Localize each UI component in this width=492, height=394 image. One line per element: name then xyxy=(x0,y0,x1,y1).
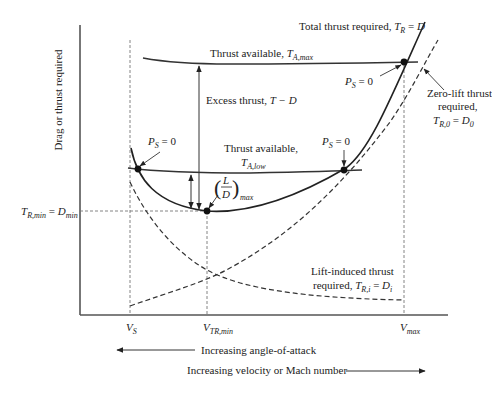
zero-lift-label-1: Zero-lift thrust xyxy=(427,87,492,99)
ps-label-max: PS = 0 xyxy=(344,75,373,90)
thrust-available-low-label-1: Thrust available, xyxy=(224,142,298,154)
lift-induced-label-2: required, TR,i = Di xyxy=(313,279,392,294)
ps-label-left: PS = 0 xyxy=(147,135,176,150)
ps-label-right: PS = 0 xyxy=(321,135,350,150)
total-thrust-label: Total thrust required, TR = D xyxy=(299,20,425,35)
ps-point-low-left xyxy=(135,166,142,173)
aoa-label: Increasing angle-of-attack xyxy=(201,344,317,356)
vtrmin-tick-label: VTR,min xyxy=(203,321,233,336)
ps-arrow-max xyxy=(380,65,401,76)
lift-induced-label-1: Lift-induced thrust xyxy=(311,265,394,277)
ps-arrow-left xyxy=(140,152,160,166)
ps-point-low-right xyxy=(341,167,348,174)
lift-induced-thrust-curve xyxy=(130,182,404,300)
y-axis-label: Drag or thrust required xyxy=(52,49,64,151)
excess-thrust-label: Excess thrust, T − D xyxy=(206,94,297,106)
trmin-tick-label: TR,min = Dmin xyxy=(21,205,78,220)
svg-text:max: max xyxy=(240,193,254,202)
vmax-tick-label: Vmax xyxy=(400,321,421,336)
zero-lift-label-3: TR,0 = D0 xyxy=(433,114,474,129)
velocity-label: Increasing velocity or Mach number xyxy=(187,364,347,376)
svg-text:L: L xyxy=(222,174,229,186)
vs-tick-label: VS xyxy=(126,321,137,336)
ps-point-max xyxy=(401,59,408,66)
thrust-drag-diagram: Drag or thrust required Total thrust req… xyxy=(0,0,492,394)
svg-text:D: D xyxy=(221,188,230,200)
thrust-available-max-label: Thrust available, TA,max xyxy=(210,47,313,62)
zero-lift-label-2: required, xyxy=(438,100,478,112)
svg-text:(: ( xyxy=(214,175,221,200)
svg-text:): ) xyxy=(232,175,239,200)
ld-max-point xyxy=(204,208,211,215)
ld-max-label: ( L D ) max xyxy=(214,174,254,202)
thrust-available-low-curve xyxy=(128,168,362,173)
thrust-available-low-label-2: TA,low xyxy=(241,156,266,171)
